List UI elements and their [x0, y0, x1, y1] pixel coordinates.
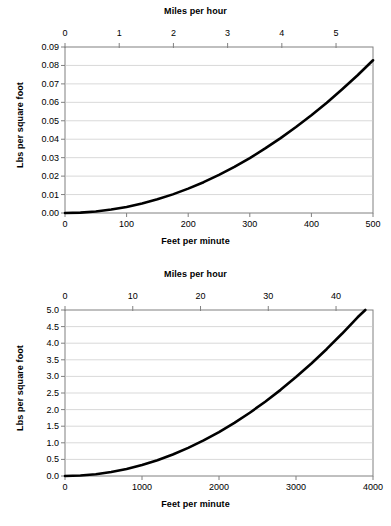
x2-tick-label: 2	[171, 28, 176, 38]
x2-tick-label: 40	[331, 291, 341, 301]
x-tick-label: 400	[304, 219, 319, 229]
y-tick-label: 0.0	[15, 471, 59, 481]
x2-tick-label: 10	[128, 291, 138, 301]
x-tick-label: 2000	[209, 482, 229, 492]
bottom-axis-title: Feet per minute	[0, 499, 391, 509]
top-axis-title: Miles per hour	[0, 6, 391, 16]
x2-tick-label: 5	[334, 28, 339, 38]
x-tick-label: 200	[181, 219, 196, 229]
x-tick-label: 500	[365, 219, 380, 229]
x2-tick-label: 1	[117, 28, 122, 38]
x-tick-label: 1000	[132, 482, 152, 492]
x2-tick-label: 3	[225, 28, 230, 38]
y-axis-title: Lbs per square foot	[15, 313, 25, 463]
y-tick-label: 0.00	[15, 208, 59, 218]
x-tick-label: 0	[62, 219, 67, 229]
x-tick-label: 3000	[286, 482, 306, 492]
bottom-axis-title: Feet per minute	[0, 236, 391, 246]
x-tick-label: 0	[62, 482, 67, 492]
x2-tick-label: 20	[196, 291, 206, 301]
chart-panel-bottom: 010203040010002000300040000.00.51.01.52.…	[0, 263, 391, 526]
y-axis-title: Lbs per square foot	[15, 50, 25, 200]
plot-frame	[65, 47, 373, 213]
x2-tick-label: 4	[279, 28, 284, 38]
x-tick-label: 4000	[363, 482, 383, 492]
x-tick-label: 100	[119, 219, 134, 229]
x2-tick-label: 0	[62, 291, 67, 301]
x2-tick-label: 0	[62, 28, 67, 38]
top-axis-title: Miles per hour	[0, 269, 391, 279]
x-tick-label: 300	[242, 219, 257, 229]
x2-tick-label: 30	[263, 291, 273, 301]
chart-panel-top: 01234501002003004005000.000.010.020.030.…	[0, 0, 391, 263]
